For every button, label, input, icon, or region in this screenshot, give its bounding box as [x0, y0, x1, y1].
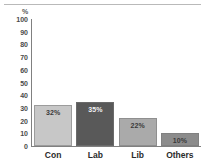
x-label-lab: Lab — [74, 149, 116, 161]
bar-value-label-lab: 35% — [88, 106, 102, 113]
x-label-con: Con — [32, 149, 74, 161]
y-axis-tick-60: 60 — [20, 66, 28, 73]
x-label-lib: Lib — [117, 149, 159, 161]
y-axis-tick-0: 0 — [24, 143, 28, 150]
bar-value-label-others: 10% — [173, 137, 187, 144]
y-axis-tick-labels: 1009080706050403020100 — [0, 0, 30, 168]
bar-slot-con: 32% — [34, 105, 72, 146]
bar-slot-lab: 35% — [76, 102, 114, 146]
bar-lab[interactable]: 35% — [76, 102, 114, 146]
y-axis-tick-50: 50 — [20, 79, 28, 86]
bar-con[interactable]: 32% — [34, 105, 72, 146]
x-label-others: Others — [159, 149, 201, 161]
bar-value-label-lib: 22% — [131, 122, 145, 129]
bar-slot-others: 10% — [161, 133, 199, 146]
y-axis-tick-40: 40 — [20, 92, 28, 99]
y-axis-tick-70: 70 — [20, 54, 28, 61]
y-axis-tick-100: 100 — [16, 16, 28, 23]
y-axis-tick-90: 90 — [20, 28, 28, 35]
bar-chart: % 1009080706050403020100 32%35%22%10% Co… — [0, 0, 205, 168]
top-divider-rule — [4, 4, 201, 5]
bar-slot-lib: 22% — [119, 118, 157, 146]
plot-area: 32%35%22%10% — [32, 19, 201, 146]
x-axis-category-labels: ConLabLibOthers — [32, 149, 201, 166]
x-axis-line — [31, 146, 201, 147]
bar-others[interactable]: 10% — [161, 133, 199, 146]
y-axis-tick-30: 30 — [20, 104, 28, 111]
bar-value-label-con: 32% — [46, 109, 60, 116]
y-axis-tick-80: 80 — [20, 41, 28, 48]
bar-lib[interactable]: 22% — [119, 118, 157, 146]
y-axis-tick-20: 20 — [20, 117, 28, 124]
y-axis-tick-10: 10 — [20, 130, 28, 137]
